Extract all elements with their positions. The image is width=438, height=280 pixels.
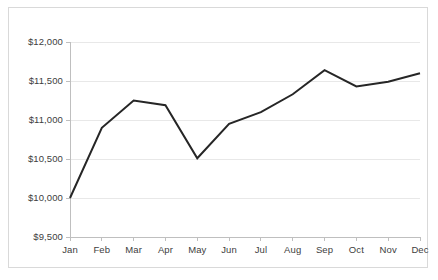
x-axis-tick-label: May [180, 244, 214, 255]
series-polyline [70, 70, 420, 198]
x-axis-tick-label: Jan [53, 244, 87, 255]
x-axis-tick-label: Nov [371, 244, 405, 255]
x-axis-tick-label: Oct [339, 244, 373, 255]
data-series-line [70, 70, 420, 198]
y-axis-tick-label: $10,000 [28, 192, 63, 203]
y-axis-tick-label: $11,500 [29, 75, 63, 86]
y-axis-tick-label: $12,000 [28, 36, 63, 47]
y-axis-tick-label: $11,000 [29, 114, 63, 125]
line-chart [0, 0, 438, 280]
x-axis-tick-label: Sep [308, 244, 342, 255]
x-axis-tick-label: Jun [212, 244, 246, 255]
y-axis-tick-label: $9,500 [33, 231, 63, 242]
x-axis-tick-label: Feb [85, 244, 119, 255]
x-axis-tick-label: Dec [403, 244, 437, 255]
y-axis-tick-label: $10,500 [28, 153, 63, 164]
x-axis-tick-label: Aug [276, 244, 310, 255]
gridlines [70, 42, 420, 237]
x-axis-tick-label: Mar [117, 244, 151, 255]
x-axis-tick-label: Jul [244, 244, 278, 255]
x-axis-tick-label: Apr [148, 244, 182, 255]
x-tick-marks [70, 237, 420, 241]
axis-lines [66, 42, 70, 237]
